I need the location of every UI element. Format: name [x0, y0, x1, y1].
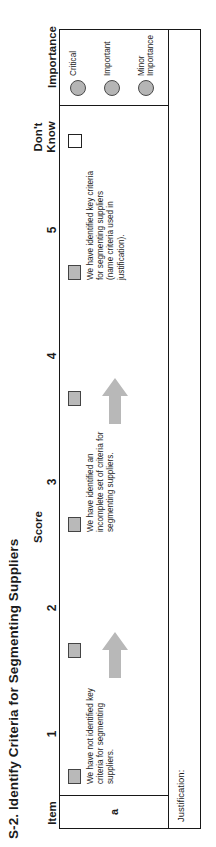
checkbox-score-4[interactable] — [68, 391, 81, 406]
justification-label: Justification: — [175, 770, 186, 822]
checkbox-dont-know[interactable] — [68, 134, 82, 148]
descriptor-score-3: We have identified an incomplete set of … — [86, 424, 117, 532]
importance-label-important: Important — [103, 41, 112, 76]
score-cell-3: We have identified an incomplete set of … — [60, 418, 168, 544]
score-cell-2 — [60, 544, 168, 670]
justification-row[interactable]: Justification: — [168, 30, 200, 828]
critical-radio-icon[interactable] — [70, 80, 86, 96]
importance-label-minor: Minor Importance — [137, 35, 156, 76]
header-dont-know-line1: Don't — [32, 107, 45, 167]
score-cell-1: We have not identified key criteria for … — [60, 670, 168, 796]
score-cell-5: We have identified key criteria for segm… — [60, 166, 168, 292]
minor-importance-radio-icon[interactable] — [138, 80, 154, 96]
score-cell-4 — [60, 292, 168, 418]
checkbox-score-1[interactable] — [68, 769, 81, 784]
page-title: S-2. Identify Criteria for Segmenting Su… — [6, 539, 21, 839]
row-item-letter: a — [60, 796, 168, 828]
header-dont-know-line2: Know — [45, 107, 58, 167]
checkbox-score-2[interactable] — [68, 643, 81, 658]
assessment-table: a We have not identified key criteria fo… — [59, 29, 201, 829]
table-header-row: Score Item 1 2 3 4 5 Don't Know Importan… — [26, 0, 60, 847]
table-row: a We have not identified key criteria fo… — [60, 30, 168, 828]
dont-know-cell — [60, 106, 168, 166]
descriptor-score-1: We have not identified key criteria for … — [86, 676, 117, 784]
importance-label-critical: Critical — [69, 51, 78, 76]
checkbox-score-3[interactable] — [68, 517, 81, 532]
important-radio-icon[interactable] — [104, 80, 120, 96]
rotated-form-stage: S-2. Identify Criteria for Segmenting Su… — [0, 0, 216, 847]
assessment-form: S-2. Identify Criteria for Segmenting Su… — [0, 0, 216, 847]
checkbox-score-5[interactable] — [68, 265, 81, 280]
importance-cell: Critical Important Minor Importance — [60, 28, 168, 106]
descriptor-score-5: We have identified key criteria for segm… — [86, 170, 127, 280]
